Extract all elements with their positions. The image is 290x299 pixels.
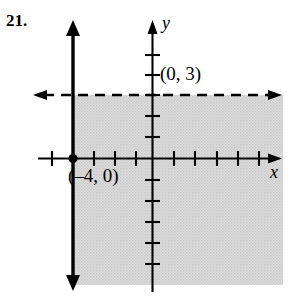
point-label-0-3: (0, 3) (160, 64, 201, 83)
plotted-point-negative-4-0 (68, 154, 77, 163)
y-axis-arrowhead-icon (148, 20, 158, 34)
graph-figure: 21. (0, 0, 290, 299)
shaded-solution-region (73, 95, 283, 285)
solid-boundary-arrowhead-up-icon (66, 20, 80, 36)
coordinate-plane-svg (0, 0, 290, 299)
point-label-negative-4-0: (–4, 0) (68, 166, 119, 185)
dashed-boundary-arrowhead-left-icon (33, 90, 47, 100)
x-axis-label: x (270, 163, 278, 181)
y-axis-label: y (162, 14, 170, 32)
